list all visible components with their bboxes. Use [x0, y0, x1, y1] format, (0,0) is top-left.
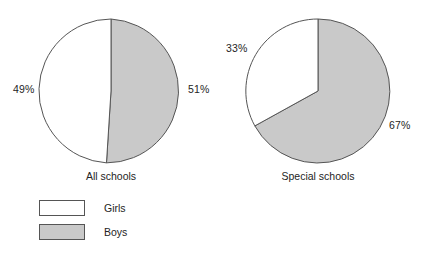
label-all-schools-boys-pct: 51%	[188, 83, 209, 95]
legend-swatch-girls-icon	[39, 200, 85, 216]
legend: Girls Boys	[39, 197, 199, 245]
legend-item-girls: Girls	[39, 197, 199, 218]
legend-label-boys: Boys	[104, 226, 127, 238]
label-special-schools-girls-pct: 33%	[226, 42, 247, 54]
slice-all-schools-girls	[39, 19, 111, 163]
legend-swatch-boys-icon	[39, 224, 85, 240]
caption-special-schools: Special schools	[263, 170, 373, 183]
pie-special-schools	[246, 19, 390, 163]
label-all-schools-girls-pct: 49%	[13, 83, 34, 95]
caption-all-schools: All schools	[61, 170, 161, 183]
legend-label-girls: Girls	[104, 202, 126, 214]
pie-all-schools	[39, 19, 179, 163]
pie-chart-figure: 49% 51% 33% 67% All schools Special scho…	[0, 0, 426, 255]
slice-all-schools-boys	[106, 19, 178, 163]
label-special-schools-boys-pct: 67%	[389, 119, 410, 131]
legend-item-boys: Boys	[39, 221, 199, 242]
